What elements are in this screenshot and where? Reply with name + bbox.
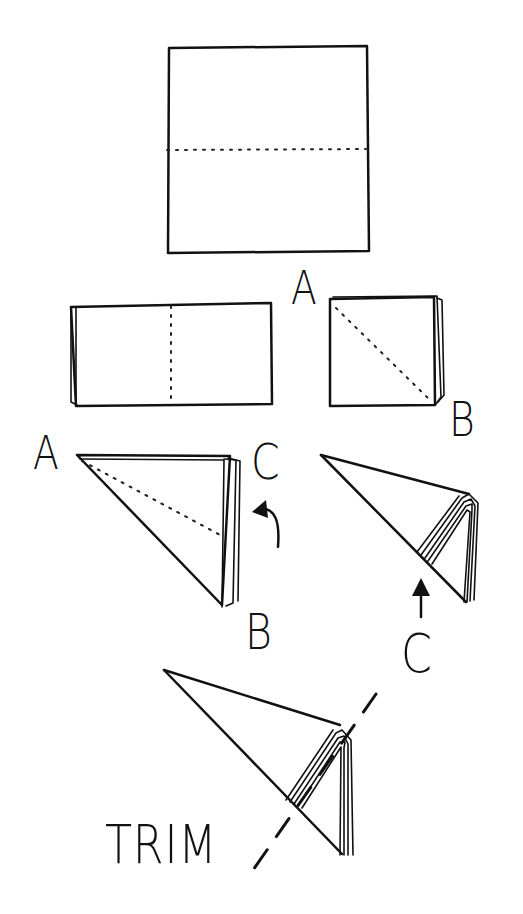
step-4-triangle [77,455,278,607]
step-1-square [167,46,369,253]
label-b-step3: B [449,395,475,443]
step-2-rectangle [71,303,272,406]
curved-arrow-head-icon [252,500,268,518]
step-5-cone [321,455,478,617]
step-3-small-square [330,296,444,406]
label-a-step4: A [33,430,59,476]
label-trim: TRIM [105,818,217,872]
up-arrow-icon [412,578,430,596]
label-a-step1: A [291,265,317,311]
label-b-step4: B [245,607,272,657]
label-c-step4: C [251,437,280,487]
label-c-step5: C [401,627,432,681]
